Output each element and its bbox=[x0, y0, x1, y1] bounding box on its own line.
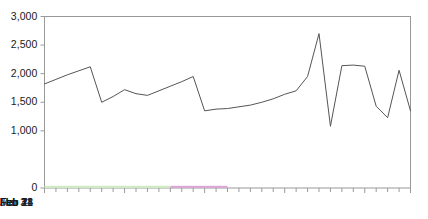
y-tick-marks bbox=[41, 17, 45, 189]
y-axis-tick-label: 3,000 bbox=[11, 10, 38, 22]
data-series-line bbox=[45, 34, 411, 127]
purple-band bbox=[170, 186, 227, 188]
y-axis-tick-label: 0 bbox=[32, 181, 38, 193]
y-axis-tick-label: 2,000 bbox=[11, 67, 38, 79]
y-axis-tick-label: 1,000 bbox=[11, 124, 38, 136]
plot-border bbox=[45, 17, 411, 189]
plot-frame bbox=[45, 17, 411, 189]
line-chart: 01,0001,5002,0002,5003,000 Jan 31Feb 7Fe… bbox=[0, 0, 428, 219]
chart-canvas bbox=[0, 0, 428, 219]
y-axis-tick-label: 1,500 bbox=[11, 95, 38, 107]
y-axis-tick-label: 2,500 bbox=[11, 38, 38, 50]
green-band bbox=[45, 186, 171, 188]
x-axis-tick-label: Mar 4 bbox=[0, 196, 27, 208]
axis-highlight-bands bbox=[45, 186, 228, 188]
x-tick-marks bbox=[45, 188, 411, 193]
